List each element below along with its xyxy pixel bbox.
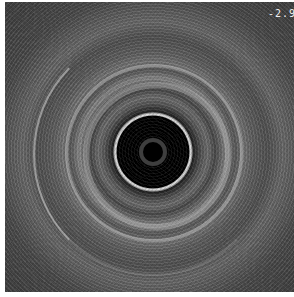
ultrasound-image: -2.9 [5, 2, 294, 292]
catheter-ring [139, 138, 167, 166]
scale-label: -2.9 [268, 8, 294, 19]
